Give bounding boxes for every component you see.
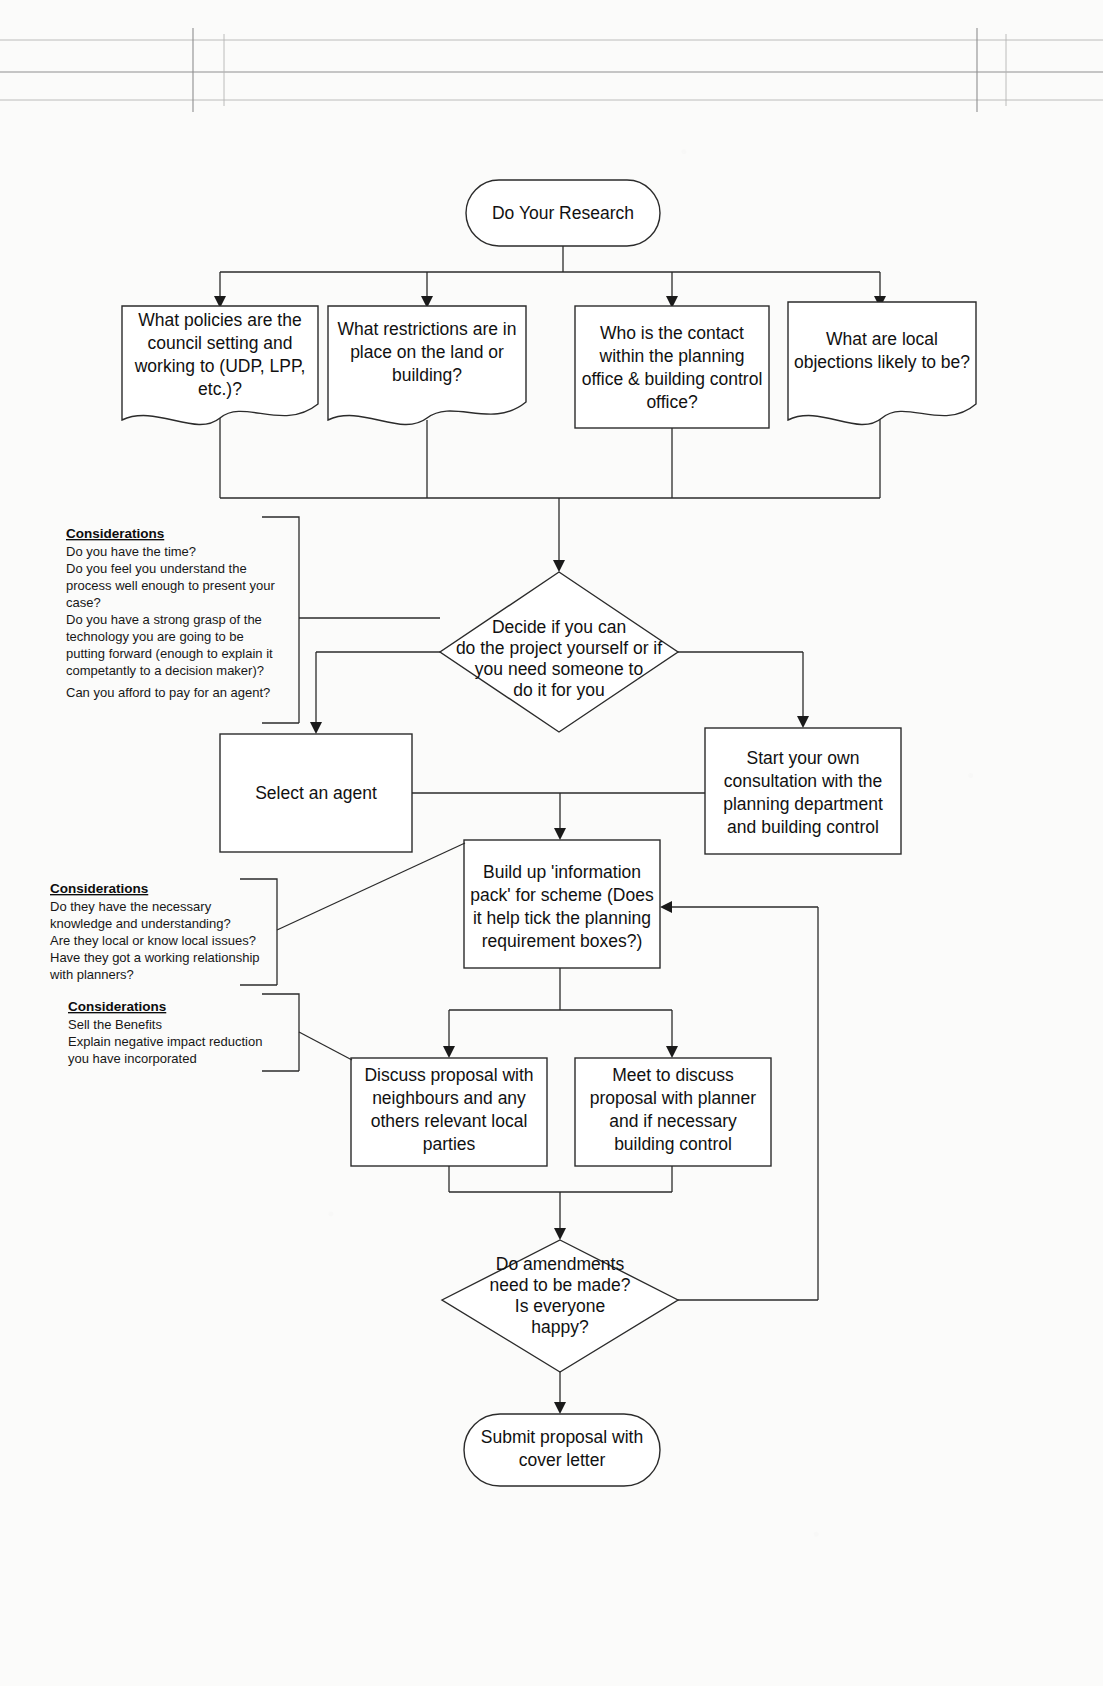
annotation-line: Do you have a strong grasp of the — [66, 612, 262, 627]
annotation-line: Do they have the necessary — [50, 899, 212, 914]
annotation-line: process well enough to present your — [66, 578, 276, 593]
annotation-line: Do you feel you understand the — [66, 561, 247, 576]
node-line: pack' for scheme (Does — [470, 885, 654, 905]
annotation-heading: Considerations — [68, 999, 166, 1014]
node-line: Is everyone — [515, 1296, 605, 1316]
node-line: What are local — [826, 329, 938, 349]
flowchart-canvas: Do Your Research What policies are the c… — [0, 0, 1103, 1686]
callout-bracket-diy — [262, 517, 440, 723]
node-line: council setting and — [148, 333, 293, 353]
annotation-heading: Considerations — [66, 526, 164, 541]
connector-decide-to-own-consultation — [678, 652, 809, 728]
node-line: Decide if you can — [492, 617, 626, 637]
node-research-contact[interactable]: Who is the contact within the planning o… — [575, 306, 769, 428]
node-line: and building control — [727, 817, 879, 837]
annotation-line: Explain negative impact reduction — [68, 1034, 262, 1049]
node-line: working to (UDP, LPP, — [134, 356, 306, 376]
node-line: etc.)? — [198, 379, 242, 399]
scan-registration-marks — [0, 28, 1103, 112]
node-line: consultation with the — [724, 771, 883, 791]
annotation-heading: Considerations — [50, 881, 148, 896]
node-do-your-research[interactable]: Do Your Research — [466, 180, 660, 246]
connector-research-to-decide — [220, 412, 880, 572]
connector-select-agent-to-info-pack — [412, 793, 566, 840]
node-line: requirement boxes?) — [482, 931, 643, 951]
callout-bracket-agent — [240, 843, 465, 985]
annotation-line: with planners? — [49, 967, 134, 982]
node-line: office? — [646, 392, 698, 412]
node-line: office & building control — [582, 369, 763, 389]
node-line: Do amendments — [496, 1254, 625, 1274]
node-line: place on the land or — [350, 342, 504, 362]
node-submit-proposal[interactable]: Submit proposal with cover letter — [464, 1414, 660, 1486]
annotation-line: putting forward (enough to explain it — [66, 646, 273, 661]
node-line: What policies are the — [138, 310, 301, 330]
annotation-considerations-agent: Considerations Do they have the necessar… — [49, 881, 260, 982]
node-line: building control — [614, 1134, 732, 1154]
node-line: Discuss proposal with — [364, 1065, 533, 1085]
node-decide-diy-or-agent[interactable]: Decide if you can do the project yoursel… — [440, 572, 678, 732]
annotation-line: Are they local or know local issues? — [50, 933, 256, 948]
node-amendments-decision[interactable]: Do amendments need to be made? Is everyo… — [442, 1240, 678, 1372]
node-line: Start your own — [747, 748, 860, 768]
node-line: happy? — [531, 1317, 589, 1337]
annotation-considerations-pitch: Considerations Sell the Benefits Explain… — [68, 999, 262, 1066]
connector-amendments-to-submit — [554, 1372, 566, 1414]
node-line: Select an agent — [255, 783, 377, 803]
node-line: within the planning — [599, 346, 745, 366]
node-line: you need someone to — [475, 659, 643, 679]
node-discuss-with-neighbours[interactable]: Discuss proposal with neighbours and any… — [351, 1058, 547, 1166]
node-line: others relevant local — [371, 1111, 528, 1131]
node-line: proposal with planner — [590, 1088, 757, 1108]
node-line: cover letter — [519, 1450, 606, 1470]
annotation-line: knowledge and understanding? — [50, 916, 231, 931]
node-line: need to be made? — [489, 1275, 630, 1295]
connector-parallel-to-amendments — [449, 1166, 672, 1240]
annotation-line: case? — [66, 595, 101, 610]
annotation-line: Can you afford to pay for an agent? — [66, 685, 270, 700]
node-line: building? — [392, 365, 462, 385]
node-research-objections[interactable]: What are local objections likely to be? — [788, 302, 976, 425]
node-line: Submit proposal with — [481, 1427, 643, 1447]
node-line: objections likely to be? — [794, 352, 970, 372]
node-meet-with-planner[interactable]: Meet to discuss proposal with planner an… — [575, 1058, 771, 1166]
node-line: neighbours and any — [372, 1088, 526, 1108]
node-line: do it for you — [513, 680, 604, 700]
annotation-line: Have they got a working relationship — [50, 950, 260, 965]
annotation-line: competantly to a decision maker)? — [66, 663, 264, 678]
node-line: parties — [423, 1134, 476, 1154]
node-research-policies[interactable]: What policies are the council setting an… — [122, 306, 318, 425]
node-start-own-consultation[interactable]: Start your own consultation with the pla… — [705, 728, 901, 854]
node-label: Do Your Research — [492, 203, 634, 223]
annotation-line: technology you are going to be — [66, 629, 244, 644]
node-line: Meet to discuss — [612, 1065, 734, 1085]
callout-bracket-pitch — [262, 994, 352, 1071]
node-line: it help tick the planning — [473, 908, 651, 928]
node-select-an-agent[interactable]: Select an agent — [220, 734, 412, 852]
node-research-restrictions[interactable]: What restrictions are in place on the la… — [328, 306, 526, 425]
connector-start-to-fanout — [214, 246, 886, 308]
node-line: do the project yourself or if — [456, 638, 662, 658]
annotation-line: Sell the Benefits — [68, 1017, 162, 1032]
node-line: and if necessary — [609, 1111, 737, 1131]
connector-decide-to-select-agent — [310, 652, 440, 734]
node-build-information-pack[interactable]: Build up 'information pack' for scheme (… — [464, 840, 660, 968]
node-line: Who is the contact — [600, 323, 744, 343]
annotation-considerations-diy: Considerations Do you have the time? Do … — [66, 526, 276, 700]
connector-info-pack-to-parallel — [443, 968, 678, 1058]
node-line: Build up 'information — [483, 862, 641, 882]
annotation-line: you have incorporated — [68, 1051, 197, 1066]
annotation-line: Do you have the time? — [66, 544, 196, 559]
node-line: What restrictions are in — [338, 319, 517, 339]
node-line: planning department — [723, 794, 883, 814]
